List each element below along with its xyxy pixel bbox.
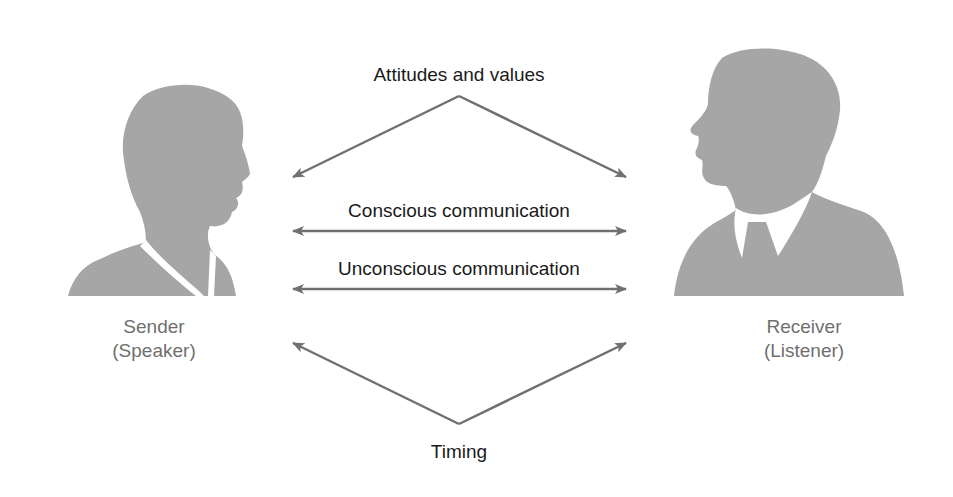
- timing-arrows: [293, 343, 626, 424]
- conscious-communication-label: Conscious communication: [300, 200, 618, 222]
- timing-label: Timing: [300, 441, 618, 463]
- receiver-label: Receiver (Listener): [740, 315, 868, 363]
- sender-silhouette-icon: [68, 85, 250, 296]
- receiver-title: Receiver: [740, 315, 868, 339]
- attitudes-values-label: Attitudes and values: [300, 64, 618, 86]
- unconscious-communication-label: Unconscious communication: [300, 258, 618, 280]
- attitudes-values-arrows: [293, 96, 626, 177]
- receiver-subtitle: (Listener): [740, 339, 868, 363]
- sender-label: Sender (Speaker): [90, 315, 218, 363]
- sender-subtitle: (Speaker): [90, 339, 218, 363]
- communication-diagram: Attitudes and values Conscious communica…: [0, 0, 953, 497]
- receiver-silhouette-icon: [674, 48, 904, 296]
- sender-title: Sender: [90, 315, 218, 339]
